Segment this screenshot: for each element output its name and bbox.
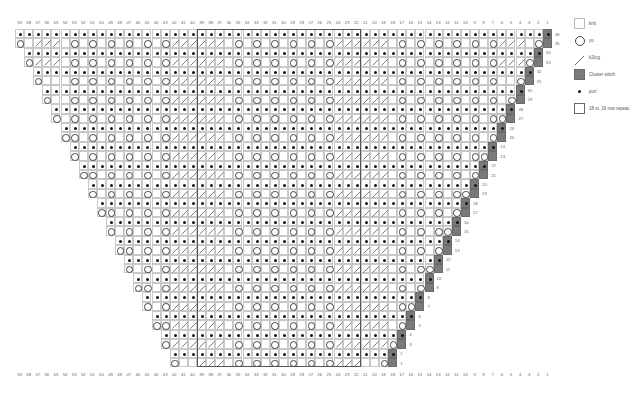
k2tog-slash-icon bbox=[354, 191, 361, 198]
chart-cell bbox=[88, 67, 97, 76]
purl-dot-icon bbox=[429, 108, 432, 111]
yo-circle-icon bbox=[253, 134, 261, 142]
chart-cell bbox=[370, 142, 379, 151]
yo-circle-icon bbox=[435, 172, 443, 180]
chart-cell bbox=[297, 339, 306, 348]
purl-dot-icon bbox=[119, 184, 122, 187]
chart-cell bbox=[243, 48, 252, 57]
chart-cell bbox=[334, 226, 343, 235]
purl-dot-icon bbox=[347, 315, 350, 318]
purl-dot-icon bbox=[228, 127, 231, 130]
k2tog-slash-icon bbox=[190, 134, 197, 141]
k2tog-slash-icon bbox=[372, 285, 379, 292]
purl-dot-icon bbox=[347, 52, 350, 55]
purl-dot-icon bbox=[210, 315, 213, 318]
k2tog-slash-icon bbox=[336, 210, 343, 217]
chart-cell bbox=[179, 330, 188, 339]
chart-cell bbox=[261, 114, 270, 123]
chart-cell bbox=[188, 104, 197, 113]
chart-cell bbox=[470, 151, 479, 160]
purl-dot-icon bbox=[119, 108, 122, 111]
purl-dot-icon bbox=[83, 52, 86, 55]
chart-cell bbox=[252, 311, 261, 320]
chart-cell bbox=[315, 292, 324, 301]
purl-dot-icon bbox=[146, 33, 149, 36]
chart-cell bbox=[188, 85, 197, 94]
chart-cell bbox=[497, 38, 506, 47]
legend-item-repeat: 18 st. 16 row repeat. bbox=[574, 103, 642, 117]
chart-cell bbox=[42, 38, 51, 47]
chart-cell bbox=[106, 29, 115, 38]
chart-cell bbox=[497, 57, 506, 66]
chart-cell bbox=[252, 302, 261, 311]
chart-cell bbox=[334, 123, 343, 132]
purl-dot-icon bbox=[301, 202, 304, 205]
yo-circle-icon bbox=[308, 228, 316, 236]
chart-cell bbox=[343, 358, 352, 367]
yo-circle-icon bbox=[308, 172, 316, 180]
chart-cell bbox=[397, 48, 406, 57]
purl-dot-icon bbox=[156, 33, 159, 36]
purl-dot-icon bbox=[128, 240, 131, 243]
chart-cell bbox=[352, 142, 361, 151]
chart-cell bbox=[224, 57, 233, 66]
column-number: 9 bbox=[470, 372, 479, 377]
chart-cell bbox=[224, 264, 233, 273]
chart-cell bbox=[352, 76, 361, 85]
chart-cell bbox=[70, 38, 79, 47]
k2tog-slash-icon bbox=[190, 285, 197, 292]
chart-cell bbox=[233, 358, 242, 367]
k2tog-slash-icon bbox=[181, 210, 188, 217]
k2tog-slash-icon bbox=[345, 247, 352, 254]
purl-dot-icon bbox=[46, 33, 49, 36]
yo-circle-icon bbox=[17, 40, 25, 48]
purl-dot-icon bbox=[374, 202, 377, 205]
purl-dot-icon bbox=[247, 90, 250, 93]
chart-cell bbox=[124, 170, 133, 179]
purl-dot-icon bbox=[328, 108, 331, 111]
purl-dot-icon bbox=[538, 52, 541, 55]
yo-circle-icon bbox=[326, 153, 334, 161]
chart-cell bbox=[233, 302, 242, 311]
column-number: 7 bbox=[488, 20, 497, 25]
purl-dot-icon bbox=[419, 108, 422, 111]
yo-circle-icon bbox=[453, 172, 461, 180]
chart-cell bbox=[279, 104, 288, 113]
column-number: 12 bbox=[443, 372, 452, 377]
chart-cell bbox=[206, 283, 215, 292]
chart-cell bbox=[279, 38, 288, 47]
chart-cell bbox=[179, 123, 188, 132]
chart-cell bbox=[279, 339, 288, 348]
chart-cell bbox=[224, 339, 233, 348]
chart-cell bbox=[434, 76, 443, 85]
chart-cell bbox=[415, 255, 424, 264]
chart-cell bbox=[334, 142, 343, 151]
chart-cell bbox=[133, 226, 142, 235]
chart-cell bbox=[270, 123, 279, 132]
chart-cell bbox=[443, 123, 452, 132]
chart-cell bbox=[434, 57, 443, 66]
chart-cell bbox=[452, 95, 461, 104]
chart-cell bbox=[297, 48, 306, 57]
k2tog-slash-icon bbox=[190, 172, 197, 179]
chart-cell bbox=[443, 179, 452, 188]
purl-dot-icon bbox=[201, 278, 204, 281]
chart-cell bbox=[243, 311, 252, 320]
yo-circle-icon bbox=[126, 172, 134, 180]
legend-label: 18 st. 16 row repeat. bbox=[589, 106, 630, 111]
chart-cell bbox=[252, 292, 261, 301]
purl-dot-icon bbox=[92, 146, 95, 149]
column-number: 31 bbox=[270, 372, 279, 377]
purl-dot-icon bbox=[292, 259, 295, 262]
chart-cell bbox=[215, 170, 224, 179]
k2tog-slash-icon bbox=[217, 322, 224, 329]
k2tog-slash-icon bbox=[172, 266, 179, 273]
purl-dot-icon bbox=[265, 52, 268, 55]
yo-circle-icon bbox=[290, 153, 298, 161]
purl-dot-icon bbox=[474, 146, 477, 149]
column-number: 3 bbox=[525, 372, 534, 377]
chart-cell bbox=[352, 311, 361, 320]
chart-cell bbox=[443, 85, 452, 94]
purl-dot-icon bbox=[156, 146, 159, 149]
column-number: 7 bbox=[488, 372, 497, 377]
